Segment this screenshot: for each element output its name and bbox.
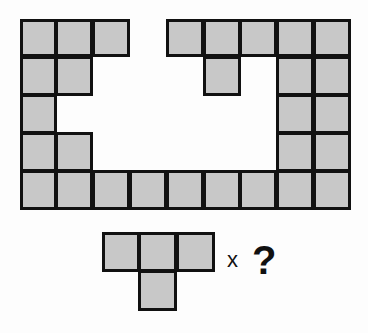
grid-cell	[92, 170, 130, 210]
grid-cell	[239, 19, 277, 57]
grid-cell	[20, 56, 57, 96]
grid-cell	[276, 56, 314, 96]
grid-cell	[276, 94, 314, 134]
grid-cell	[20, 132, 57, 172]
piece-cell	[102, 232, 140, 272]
grid-cell	[276, 132, 314, 172]
grid-cell	[92, 19, 130, 57]
grid-cell	[20, 19, 57, 57]
grid-cell	[313, 170, 351, 210]
piece-cell	[138, 270, 177, 311]
shape-grid	[20, 19, 351, 211]
grid-cell	[203, 19, 241, 57]
piece-cell	[176, 232, 215, 272]
grid-cell	[313, 19, 351, 57]
grid-cell	[55, 56, 93, 96]
grid-cell	[166, 19, 204, 57]
grid-cell	[55, 132, 93, 172]
grid-cell	[313, 94, 351, 134]
grid-cell	[20, 170, 57, 210]
grid-cell	[313, 56, 351, 96]
grid-cell	[276, 19, 314, 57]
grid-cell	[20, 94, 57, 134]
grid-cell	[239, 170, 277, 210]
grid-cell	[166, 170, 204, 210]
piece-cell	[138, 232, 177, 272]
grid-cell	[313, 132, 351, 172]
grid-cell	[55, 19, 93, 57]
grid-cell	[203, 56, 241, 96]
grid-cell	[55, 170, 93, 210]
grid-cell	[276, 170, 314, 210]
question-mark: ?	[252, 240, 276, 280]
grid-cell	[203, 170, 241, 210]
t-piece	[102, 232, 215, 311]
grid-cell	[129, 170, 167, 210]
multiply-sign: x	[227, 249, 238, 271]
